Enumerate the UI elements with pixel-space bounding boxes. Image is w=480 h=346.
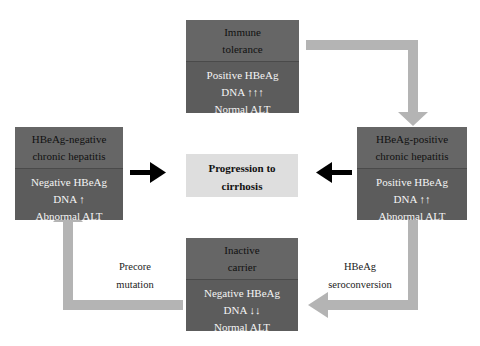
cirrhosis-line: Progression to <box>186 159 298 177</box>
node-body: Negative HBeAg DNA ↑ Abnormal ALT <box>15 169 123 229</box>
arrow-positive-to-cirrhosis <box>316 162 352 183</box>
arrow-immune-to-positive <box>306 40 428 126</box>
title-line: carrier <box>188 259 296 276</box>
dna-level: DNA ↑↑↑ <box>188 84 297 101</box>
title-line: chronic hepatitis <box>359 148 465 165</box>
label-line: Precore <box>95 258 175 276</box>
title-line: HBeAg-positive <box>359 131 465 148</box>
label-hbeag-seroconversion: HBeAg seroconversion <box>315 258 405 294</box>
dna-level: DNA ↓↓ <box>188 302 296 319</box>
node-cirrhosis: Progression to cirrhosis <box>186 154 298 197</box>
node-body: Positive HBeAg DNA ↑↑ Abnormal ALT <box>357 169 467 229</box>
label-line: mutation <box>95 276 175 294</box>
node-title: Immune tolerance <box>186 20 299 62</box>
node-title: HBeAg-negative chronic hepatitis <box>15 127 123 169</box>
node-title: HBeAg-positive chronic hepatitis <box>357 127 467 169</box>
cirrhosis-line: cirrhosis <box>186 177 298 195</box>
hbeag-status: Positive HBeAg <box>359 174 465 191</box>
alt-status: Abnormal ALT <box>17 208 121 225</box>
dna-level: DNA ↑ <box>17 191 121 208</box>
dna-level: DNA ↑↑ <box>359 191 465 208</box>
label-precore-mutation: Precore mutation <box>95 258 175 294</box>
label-line: HBeAg <box>315 258 405 276</box>
title-line: Inactive <box>188 242 296 259</box>
node-immune-tolerance: Immune tolerance Positive HBeAg DNA ↑↑↑ … <box>186 20 299 113</box>
node-body: Negative HBeAg DNA ↓↓ Normal ALT <box>186 280 298 340</box>
label-line: seroconversion <box>315 276 405 294</box>
arrow-negative-to-cirrhosis <box>130 162 166 183</box>
node-inactive-carrier: Inactive carrier Negative HBeAg DNA ↓↓ N… <box>186 238 298 331</box>
node-title: Inactive carrier <box>186 238 298 280</box>
node-hbeag-positive: HBeAg-positive chronic hepatitis Positiv… <box>357 127 467 220</box>
title-line: chronic hepatitis <box>17 148 121 165</box>
hbeag-status: Negative HBeAg <box>188 285 296 302</box>
title-line: Immune <box>188 24 297 41</box>
alt-status: Abnormal ALT <box>359 208 465 225</box>
node-hbeag-negative: HBeAg-negative chronic hepatitis Negativ… <box>15 127 123 220</box>
title-line: HBeAg-negative <box>17 131 121 148</box>
title-line: tolerance <box>188 41 297 58</box>
hbeag-status: Positive HBeAg <box>188 67 297 84</box>
alt-status: Normal ALT <box>188 319 296 336</box>
hbeag-status: Negative HBeAg <box>17 174 121 191</box>
node-body: Positive HBeAg DNA ↑↑↑ Normal ALT <box>186 62 299 122</box>
alt-status: Normal ALT <box>188 101 297 118</box>
